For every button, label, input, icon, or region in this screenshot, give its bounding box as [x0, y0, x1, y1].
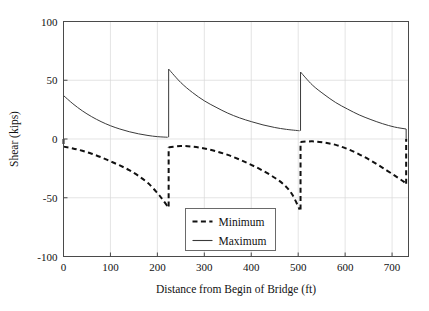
- shear-envelope-chart: 0100200300400500600700100500-50-100 Mini…: [0, 0, 429, 311]
- series-minimum-segment: [301, 141, 407, 183]
- x-tick-label: 300: [196, 261, 213, 273]
- chart-canvas: 0100200300400500600700100500-50-100 Mini…: [0, 0, 429, 311]
- x-tick-label: 700: [384, 261, 401, 273]
- y-tick-label: 100: [41, 16, 58, 28]
- x-tick-label: 500: [290, 261, 307, 273]
- x-tick-label: 100: [102, 261, 119, 273]
- x-tick-label: 200: [149, 261, 166, 273]
- legend-label-maximum: Maximum: [219, 235, 267, 247]
- y-tick-label: 50: [47, 74, 59, 86]
- series-maximum-segment: [169, 69, 300, 131]
- series-maximum-segment: [64, 96, 168, 138]
- y-tick-label: 0: [52, 133, 58, 145]
- y-axis-title: Shear (kips): [8, 111, 21, 167]
- x-tick-label: 600: [337, 261, 354, 273]
- x-axis-title: Distance from Begin of Bridge (ft): [156, 283, 316, 296]
- legend-label-minimum: Minimum: [219, 216, 265, 228]
- y-tick-label: -50: [43, 192, 58, 204]
- chart-legend[interactable]: MinimumMaximum: [186, 209, 276, 251]
- x-tick-label: 400: [243, 261, 260, 273]
- x-tick-label: 0: [61, 261, 67, 273]
- y-tick-label: -100: [37, 251, 58, 263]
- series-minimum-segment: [169, 146, 300, 209]
